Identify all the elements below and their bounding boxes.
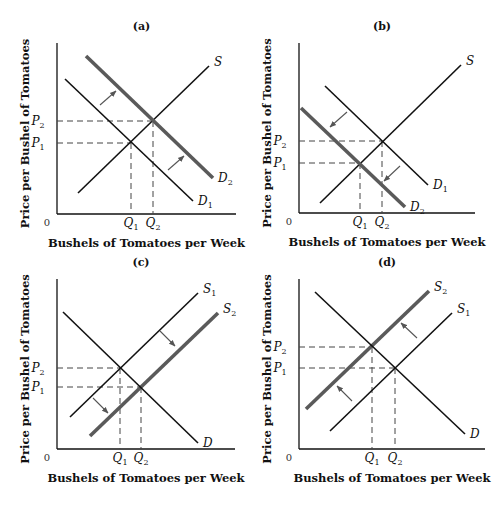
shift-arrow-icon <box>401 323 417 338</box>
price-tick-p1: P1 <box>30 136 44 152</box>
shift-arrow-icon <box>337 386 352 401</box>
x-axis-title: Bushels of Tomatoes per Week <box>47 471 245 485</box>
curve-s2 <box>90 313 218 436</box>
curve-label-s1: S1 <box>203 282 216 298</box>
origin-label: 0 <box>44 452 50 463</box>
y-axis-title: Price per Bushel of Tomatoes <box>260 38 274 227</box>
curve-s2 <box>306 291 429 409</box>
panel-title: (c) <box>132 256 149 269</box>
quantity-tick-q2: Q2 <box>388 451 403 467</box>
price-tick-p1: P1 <box>272 361 286 377</box>
quantity-tick-q1: Q1 <box>113 451 128 467</box>
price-tick-p2: P2 <box>272 340 286 356</box>
panel-title: (d) <box>378 256 396 269</box>
x-axis-title: Bushels of Tomatoes per Week <box>293 471 491 485</box>
curve-s1 <box>330 313 452 431</box>
quantity-tick-q1: Q1 <box>124 216 139 232</box>
curve-label-s: S <box>466 54 474 68</box>
shift-arrow-icon <box>384 166 400 181</box>
origin-label: 0 <box>286 216 292 227</box>
panel-a: (a)0Bushels of Tomatoes per WeekPrice pe… <box>18 20 246 250</box>
curve-d1 <box>325 86 428 185</box>
curve-label-d1: D1 <box>432 178 448 194</box>
curve-label-d1: D1 <box>197 194 213 210</box>
y-axis-title: Price per Bushel of Tomatoes <box>18 274 32 463</box>
curve-d2 <box>301 108 405 207</box>
y-axis-title: Price per Bushel of Tomatoes <box>18 39 32 228</box>
quantity-tick-q1: Q1 <box>353 215 368 231</box>
curve-label-s: S <box>214 55 222 69</box>
origin-label: 0 <box>44 217 50 228</box>
curve-label-d2: D2 <box>217 171 233 187</box>
x-axis-title: Bushels of Tomatoes per Week <box>48 236 246 250</box>
origin-label: 0 <box>286 452 292 463</box>
curve-label-s1: S1 <box>457 302 470 318</box>
price-tick-p1: P1 <box>272 156 286 172</box>
quantity-tick-q1: Q1 <box>365 451 380 467</box>
curve-s <box>78 66 209 193</box>
panel-b: (b)0Bushels of Tomatoes per WeekPrice pe… <box>260 20 487 249</box>
panel-d: (d)0Bushels of Tomatoes per WeekPrice pe… <box>260 256 492 485</box>
shift-arrow-icon <box>330 112 347 127</box>
price-tick-p2: P2 <box>30 361 44 377</box>
quantity-tick-q2: Q2 <box>146 216 161 232</box>
curve-label-d2: D2 <box>409 200 425 216</box>
panel-title: (a) <box>133 20 151 33</box>
curve-label-s2: S2 <box>434 280 447 296</box>
price-tick-p1: P1 <box>30 380 44 396</box>
quantity-tick-q2: Q2 <box>375 215 390 231</box>
curve-s1 <box>70 293 198 417</box>
shift-arrow-icon <box>168 156 184 170</box>
quantity-tick-q2: Q2 <box>134 451 149 467</box>
curve-d <box>63 312 198 443</box>
shift-arrow-icon <box>93 398 108 413</box>
curve-label-s2: S2 <box>223 302 236 318</box>
panel-c: (c)0Bushels of Tomatoes per WeekPrice pe… <box>18 256 246 485</box>
curve-label-d: D <box>469 427 480 441</box>
panel-title: (b) <box>373 20 391 33</box>
shift-arrow-icon <box>100 91 116 105</box>
y-axis-title: Price per Bushel of Tomatoes <box>260 274 274 463</box>
price-tick-p2: P2 <box>30 114 44 130</box>
price-tick-p2: P2 <box>272 134 286 150</box>
supply-demand-figure: (a)0Bushels of Tomatoes per WeekPrice pe… <box>0 0 497 505</box>
shift-arrow-icon <box>160 331 175 346</box>
curve-label-d: D <box>202 436 213 450</box>
curve-d <box>315 292 465 434</box>
x-axis-title: Bushels of Tomatoes per Week <box>288 235 486 249</box>
